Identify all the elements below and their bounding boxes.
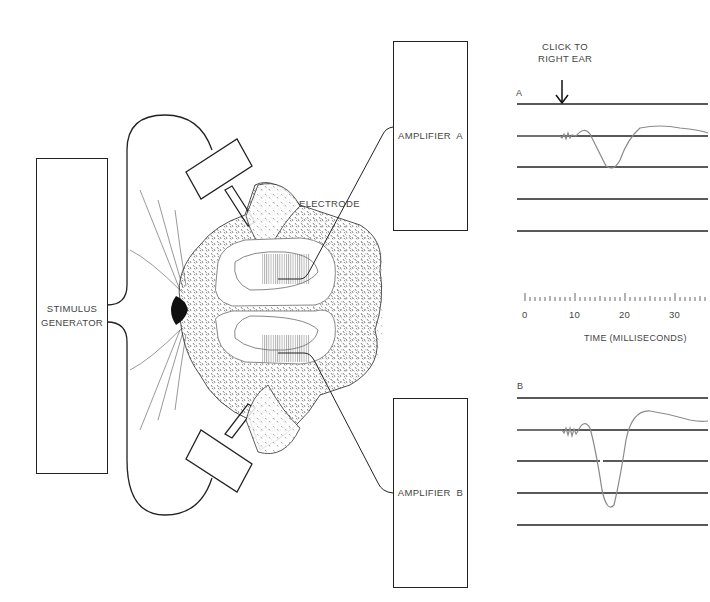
trace-b-label: B (517, 381, 523, 391)
electrode-label: ELECTRODE (299, 198, 360, 209)
time-axis-label: TIME (MILLISECONDS) (584, 333, 687, 343)
time-tick-0: 0 (522, 309, 528, 320)
click-arrow (556, 80, 568, 103)
amplifier-b-box: AMPLIFIER B (393, 398, 468, 588)
click-annotation-line2: RIGHT EAR (538, 53, 592, 64)
amplifier-b-label: AMPLIFIER B (398, 486, 463, 500)
time-tick-10: 10 (569, 309, 580, 320)
earphone-top (186, 139, 255, 226)
stimulus-generator-label-line2: GENERATOR (41, 317, 103, 328)
trace-a-label: A (516, 88, 522, 98)
time-tick-20: 20 (619, 309, 630, 320)
amplifier-a-label: AMPLIFIER A (398, 129, 463, 143)
stimulus-generator-label-line1: STIMULUS (47, 303, 97, 314)
stimulus-generator-box: STIMULUS GENERATOR (36, 158, 108, 474)
cat-head (130, 183, 385, 454)
time-tick-30: 30 (669, 309, 680, 320)
amplifier-a-box: AMPLIFIER A (393, 41, 468, 231)
auditory-cortex-response-bottom (262, 335, 310, 362)
click-annotation-line1: CLICK TO (542, 41, 588, 52)
time-axis-ticks (525, 293, 705, 301)
trace-a-waveform (517, 126, 708, 168)
